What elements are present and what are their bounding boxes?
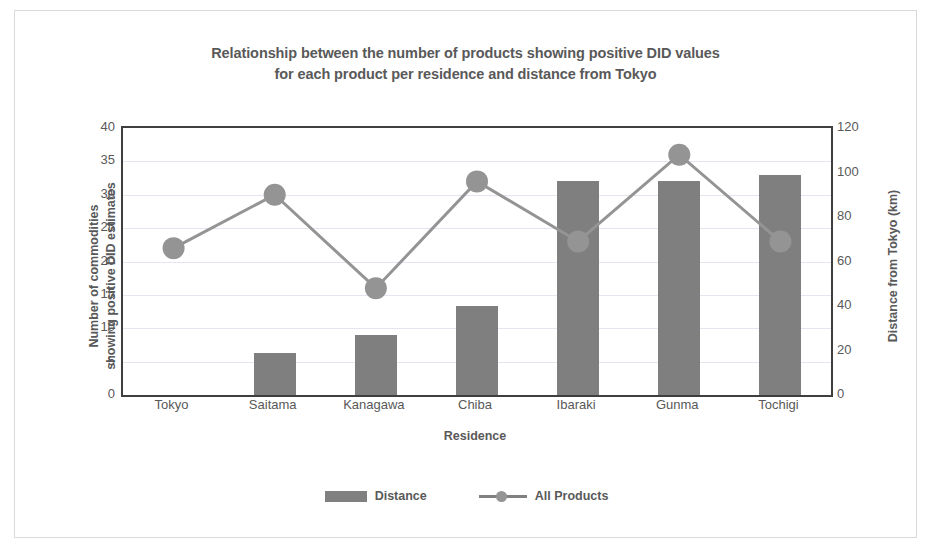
x-axis-tick-label: Tochigi	[728, 397, 829, 412]
line-marker[interactable]	[264, 184, 286, 206]
y-axis-primary-ticks: 0510152025303540	[75, 126, 115, 393]
x-axis-tick-label: Ibaraki	[526, 397, 627, 412]
x-axis-tick-label: Chiba	[424, 397, 525, 412]
y-axis-primary-tick-label: 35	[101, 152, 115, 167]
bar-swatch-icon	[325, 491, 367, 502]
y-axis-secondary-tick-label: 60	[837, 252, 851, 267]
y-axis-secondary-tick-label: 120	[837, 119, 859, 134]
line-marker[interactable]	[769, 230, 791, 252]
line-marker[interactable]	[163, 237, 185, 259]
chart-figure: Relationship between the number of produ…	[14, 10, 917, 538]
y-axis-primary-tick-label: 10	[101, 319, 115, 334]
x-axis-tick-label: Tokyo	[121, 397, 222, 412]
chart-legend: Distance All Products	[15, 489, 918, 503]
y-axis-secondary-tick-label: 0	[837, 386, 844, 401]
line-marker[interactable]	[466, 170, 488, 192]
legend-label-all-products: All Products	[535, 489, 609, 503]
x-axis-tick-label: Gunma	[627, 397, 728, 412]
y-axis-secondary-tick-label: 20	[837, 341, 851, 356]
chart-title-line-1: Relationship between the number of produ…	[15, 43, 916, 64]
y-axis-primary-tick-label: 25	[101, 219, 115, 234]
plot-area	[121, 126, 833, 397]
legend-item-all-products[interactable]: All Products	[479, 489, 609, 503]
line-marker-swatch-icon	[479, 490, 527, 502]
x-axis-title: Residence	[121, 429, 829, 443]
line-marker[interactable]	[567, 230, 589, 252]
chart-title-line-2: for each product per residence and dista…	[15, 64, 916, 85]
y-axis-secondary-tick-label: 80	[837, 208, 851, 223]
y-axis-primary-tick-label: 20	[101, 252, 115, 267]
y-axis-primary-tick-label: 5	[108, 352, 115, 367]
line-marker[interactable]	[365, 277, 387, 299]
y-axis-primary-tick-label: 30	[101, 185, 115, 200]
y-axis-secondary-ticks: 020406080100120	[837, 126, 877, 393]
y-axis-primary-tick-label: 40	[101, 119, 115, 134]
x-axis-tick-label: Kanagawa	[323, 397, 424, 412]
line-marker[interactable]	[668, 144, 690, 166]
chart-title: Relationship between the number of produ…	[15, 43, 916, 85]
y-axis-secondary-tick-label: 100	[837, 163, 859, 178]
y-axis-secondary-title: Distance from Tokyo (km)	[886, 126, 900, 406]
legend-label-distance: Distance	[375, 489, 427, 503]
x-axis-tick-label: Saitama	[222, 397, 323, 412]
x-axis-tick-labels: TokyoSaitamaKanagawaChibaIbarakiGunmaToc…	[121, 397, 829, 412]
y-axis-primary-tick-label: 15	[101, 285, 115, 300]
legend-item-distance[interactable]: Distance	[325, 489, 427, 503]
y-axis-secondary-tick-label: 40	[837, 297, 851, 312]
line-series-all-products	[123, 128, 831, 395]
y-axis-primary-tick-label: 0	[108, 386, 115, 401]
